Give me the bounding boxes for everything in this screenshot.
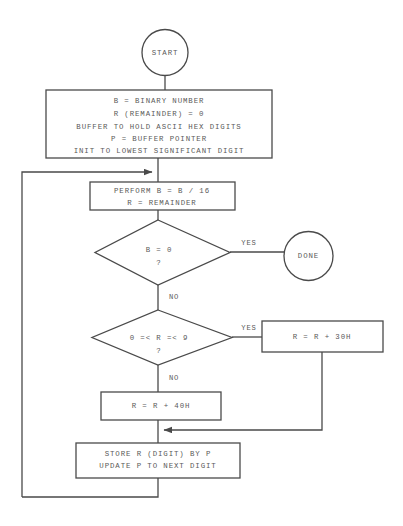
flowchart-canvas: START B = BINARY NUMBER R (REMAINDER) = … — [0, 0, 403, 526]
node-check-r-range-line-2: ? — [156, 347, 161, 355]
edge-label-check-b-no: NO — [169, 293, 179, 301]
flowchart-page: START B = BINARY NUMBER R (REMAINDER) = … — [0, 0, 403, 526]
node-store-line-2: UPDATE P TO NEXT DIGIT — [99, 462, 216, 470]
node-start-label: START — [152, 49, 179, 57]
node-check-b-zero-line-2: ? — [156, 259, 161, 267]
node-init-line-5: INIT TO LOWEST SIGNIFICANT DIGIT — [74, 147, 245, 155]
node-divide-line-1: PERFORM B = B / 16 — [114, 187, 210, 195]
node-add-40h-label: R = R + 40H — [132, 402, 191, 410]
edge-label-check-r-no: NO — [169, 374, 179, 382]
connector-store-to-loop — [22, 478, 158, 497]
node-init-line-1: B = BINARY NUMBER — [114, 97, 205, 105]
node-check-b-zero-line-1: B = 0 — [146, 246, 173, 254]
node-add-30h-label: R = R + 30H — [293, 333, 352, 341]
node-divide-line-2: R = REMAINDER — [127, 199, 196, 207]
edge-label-check-b-yes: YES — [241, 239, 256, 247]
node-done-label: DONE — [298, 252, 319, 260]
node-check-r-range-line-1: 0 =< R =< 9 — [130, 334, 189, 342]
edge-label-check-r-yes: YES — [241, 324, 256, 332]
node-init-line-4: P = BUFFER POINTER — [111, 135, 207, 143]
node-store-line-1: STORE R (DIGIT) BY P — [105, 450, 212, 458]
node-store — [76, 443, 240, 478]
node-init-line-3: BUFFER TO HOLD ASCII HEX DIGITS — [76, 123, 241, 131]
node-init-line-2: R (REMAINDER) = 0 — [114, 110, 205, 118]
